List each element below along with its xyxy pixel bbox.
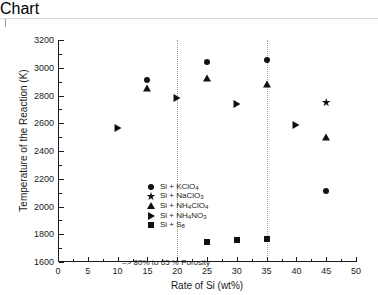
- x-tick-label: 45: [321, 266, 331, 276]
- x-tick-major: [58, 257, 59, 262]
- data-point: [203, 75, 211, 82]
- x-tick-label: 0: [55, 266, 60, 276]
- legend-label: Si + NH4NO3: [160, 212, 206, 220]
- legend-marker-right-triangle-icon: [146, 212, 156, 220]
- data-point: [204, 239, 210, 245]
- y-tick-minor: [59, 137, 62, 138]
- x-tick-label: 10: [113, 266, 123, 276]
- x-tick-label: 20: [172, 266, 182, 276]
- legend-label: Si + KClO4: [160, 183, 199, 191]
- data-point: [264, 57, 270, 63]
- y-tick-major: [59, 262, 64, 263]
- legend-marker-square-icon: [146, 222, 156, 228]
- y-tick-minor: [59, 165, 62, 166]
- y-tick-label: 3000: [34, 63, 54, 73]
- data-point: [144, 77, 150, 83]
- x-tick-major: [88, 257, 89, 262]
- plot-area: 160018002000220024002600280030003200 051…: [58, 40, 356, 262]
- y-tick-label: 2600: [34, 118, 54, 128]
- y-tick-minor: [59, 82, 62, 83]
- x-tick-label: 15: [142, 266, 152, 276]
- legend-label: Si + NH4ClO4: [160, 202, 208, 210]
- data-point: [174, 94, 181, 102]
- x-tick-minor: [341, 259, 342, 262]
- y-tick-label: 2000: [34, 202, 54, 212]
- x-tick-major: [296, 257, 297, 262]
- legend-marker-circle-icon: [146, 184, 156, 190]
- data-point: [322, 98, 331, 107]
- x-tick-minor: [252, 259, 253, 262]
- y-tick-minor: [59, 54, 62, 55]
- x-tick-major: [237, 257, 238, 262]
- x-tick-major: [326, 257, 327, 262]
- y-tick-minor: [59, 248, 62, 249]
- x-tick-label: 30: [232, 266, 242, 276]
- x-tick-label: 40: [291, 266, 301, 276]
- y-tick-minor: [59, 109, 62, 110]
- x-tick-minor: [222, 259, 223, 262]
- y-tick-major: [59, 40, 64, 41]
- data-point: [322, 134, 330, 141]
- y-tick-label: 3200: [34, 35, 54, 45]
- data-point: [234, 237, 240, 243]
- y-tick-minor: [59, 193, 62, 194]
- y-axis-title: Temperature of the Reaction (K): [18, 30, 29, 252]
- legend: Si + KClO4Si + NaClO3Si + NH4ClO4Si + NH…: [146, 182, 208, 230]
- x-tick-label: 35: [262, 266, 272, 276]
- x-tick-major: [267, 257, 268, 262]
- y-tick-minor: [59, 220, 62, 221]
- y-tick-major: [59, 151, 64, 152]
- y-tick-major: [59, 68, 64, 69]
- y-tick-label: 2200: [34, 174, 54, 184]
- page-edge-artifact: [0, 18, 378, 27]
- legend-marker-triangle-icon: [146, 202, 156, 209]
- legend-item: Si + NH4ClO4: [146, 201, 208, 211]
- x-tick-minor: [73, 259, 74, 262]
- y-tick-label: 2800: [34, 91, 54, 101]
- y-tick-label: 1600: [34, 257, 54, 267]
- data-point: [114, 124, 121, 132]
- data-point: [233, 100, 240, 108]
- data-point: [323, 188, 329, 194]
- x-tick-label: 50: [351, 266, 361, 276]
- data-point: [264, 236, 270, 242]
- x-tick-minor: [103, 259, 104, 262]
- x-tick-minor: [282, 259, 283, 262]
- x-tick-minor: [311, 259, 312, 262]
- x-axis-title: Rate of Si (wt%): [58, 280, 356, 291]
- legend-item: Si + NaClO3: [146, 192, 208, 202]
- legend-item: Si + NH4NO3: [146, 211, 208, 221]
- y-tick-major: [59, 123, 64, 124]
- x-tick-major: [356, 257, 357, 262]
- x-tick-major: [118, 257, 119, 262]
- legend-label: Si + NaClO3: [160, 192, 204, 200]
- data-point: [143, 84, 151, 91]
- y-tick-major: [59, 207, 64, 208]
- legend-item: Si + S8: [146, 220, 208, 230]
- data-point: [293, 121, 300, 129]
- page-edge-tick: [5, 19, 6, 27]
- reference-line-x-35: [267, 40, 268, 262]
- y-tick-major: [59, 234, 64, 235]
- x-tick-label: 5: [85, 266, 90, 276]
- y-tick-label: 1800: [34, 229, 54, 239]
- porosity-annotation: => 80% to 65 % Porosity: [122, 258, 210, 267]
- legend-item: Si + KClO4: [146, 182, 208, 192]
- data-point: [263, 81, 271, 88]
- x-tick-label: 25: [202, 266, 212, 276]
- figure: 160018002000220024002600280030003200 051…: [0, 18, 378, 295]
- legend-label: Si + S8: [160, 221, 185, 229]
- y-tick-major: [59, 96, 64, 97]
- y-tick-major: [59, 179, 64, 180]
- legend-marker-star-icon: [146, 192, 156, 201]
- data-point: [204, 59, 210, 65]
- y-tick-label: 2400: [34, 146, 54, 156]
